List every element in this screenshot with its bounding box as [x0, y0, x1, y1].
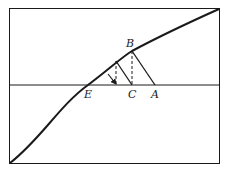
frame [10, 9, 220, 164]
segment-P2-C [116, 61, 132, 85]
label-A: A [150, 88, 159, 101]
diagram-canvas: BECA [0, 0, 229, 172]
segment-B-A [132, 51, 155, 85]
label-B: B [125, 37, 134, 50]
label-E: E [83, 88, 92, 101]
arrow-next-step [108, 74, 116, 84]
curve [10, 9, 219, 163]
label-C: C [128, 88, 137, 101]
